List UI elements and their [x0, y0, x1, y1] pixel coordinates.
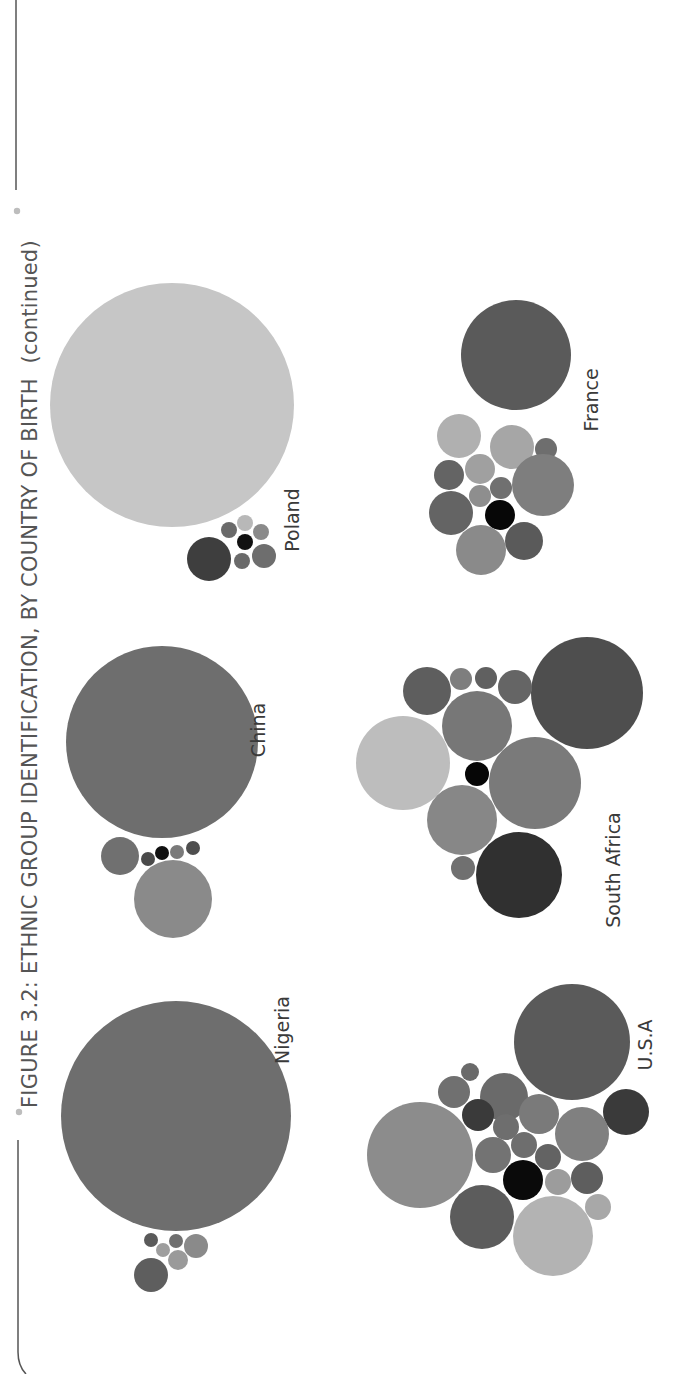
- bubble: [427, 785, 497, 855]
- bubble: [585, 1194, 611, 1220]
- bubble: [462, 1099, 494, 1131]
- bubble: [101, 837, 139, 875]
- bubble: [252, 544, 276, 568]
- bubble: [170, 845, 184, 859]
- cluster-nigeria: Nigeria: [61, 996, 293, 1292]
- bubble: [156, 1243, 170, 1257]
- figure-title-suffix: (continued): [18, 240, 42, 363]
- country-label-nigeria: Nigeria: [271, 996, 293, 1064]
- cluster-u-s-a: U.S.A: [367, 984, 656, 1276]
- bubble: [545, 1169, 571, 1195]
- bubble: [535, 1144, 561, 1170]
- bubble: [356, 716, 450, 810]
- bubble: [490, 477, 512, 499]
- country-label-china: China: [247, 703, 269, 757]
- bubble: [144, 1233, 158, 1247]
- bubble: [489, 737, 581, 829]
- bubble: [450, 1185, 514, 1249]
- country-label-u-s-a: U.S.A: [634, 1019, 656, 1070]
- bubble: [184, 1234, 208, 1258]
- bubble: [469, 485, 491, 507]
- bubble: [141, 852, 155, 866]
- bubble: [168, 1250, 188, 1270]
- bubble: [475, 667, 497, 689]
- bubble-clusters: NigeriaChinaPolandU.S.ASouth AfricaFranc…: [50, 283, 656, 1292]
- bubble: [429, 491, 473, 535]
- bubble: [511, 1132, 537, 1158]
- cluster-france: France: [429, 300, 602, 575]
- bubble: [603, 1089, 649, 1135]
- cluster-south-africa: South Africa: [356, 637, 643, 928]
- bubble: [134, 860, 212, 938]
- bubble: [514, 984, 630, 1100]
- bubble: [66, 646, 258, 838]
- bubble: [461, 300, 571, 410]
- country-label-poland: Poland: [281, 488, 303, 551]
- bubble: [434, 460, 464, 490]
- figure-title-main: FIGURE 3.2: ETHNIC GROUP IDENTIFICATION,…: [18, 378, 42, 1108]
- bubble: [169, 1234, 183, 1248]
- figure-title: FIGURE 3.2: ETHNIC GROUP IDENTIFICATION,…: [18, 240, 42, 1108]
- bubble: [237, 515, 253, 531]
- bubble: [451, 856, 475, 880]
- bubble: [221, 522, 237, 538]
- bubble: [465, 454, 495, 484]
- bubble: [403, 667, 451, 715]
- bubble: [465, 762, 489, 786]
- bubble: [186, 841, 200, 855]
- cluster-china: China: [66, 646, 269, 938]
- bubble: [450, 668, 472, 690]
- bubble: [437, 414, 481, 458]
- bubble: [367, 1102, 473, 1208]
- bubble: [237, 534, 253, 550]
- bubble: [503, 1160, 543, 1200]
- bubble: [442, 691, 512, 761]
- bubble: [456, 525, 506, 575]
- bubble: [555, 1107, 609, 1161]
- bubble: [571, 1162, 603, 1194]
- country-label-south-africa: South Africa: [602, 812, 624, 927]
- bubble: [531, 637, 643, 749]
- bubble: [505, 522, 543, 560]
- bubble: [519, 1094, 559, 1134]
- bubble: [253, 524, 269, 540]
- bubble: [187, 537, 231, 581]
- bubble: [475, 1137, 511, 1173]
- bubble: [485, 500, 515, 530]
- bubble: [512, 454, 574, 516]
- bubble: [476, 832, 562, 918]
- figure-page: NigeriaChinaPolandU.S.ASouth AfricaFranc…: [0, 0, 673, 1374]
- cluster-poland: Poland: [50, 283, 303, 581]
- bubble: [61, 1001, 291, 1231]
- bubble: [50, 283, 294, 527]
- bubble-chart: NigeriaChinaPolandU.S.ASouth AfricaFranc…: [0, 0, 673, 1374]
- bubble: [234, 553, 250, 569]
- bubble: [461, 1063, 479, 1081]
- bubble: [155, 846, 169, 860]
- bubble: [498, 670, 532, 704]
- bubble: [134, 1258, 168, 1292]
- country-label-france: France: [580, 368, 602, 431]
- bubble: [438, 1076, 470, 1108]
- bubble: [513, 1196, 593, 1276]
